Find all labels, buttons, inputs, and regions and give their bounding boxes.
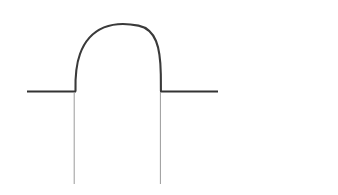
pulse-waveform-figure xyxy=(0,0,338,195)
figure-background xyxy=(0,0,338,195)
figure-canvas xyxy=(0,0,338,195)
